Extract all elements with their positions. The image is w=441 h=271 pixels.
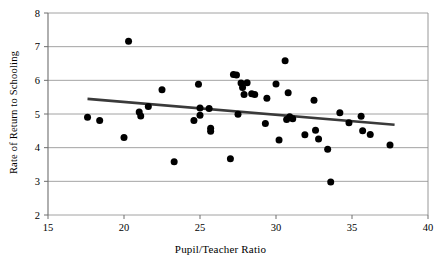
data-point (358, 113, 365, 120)
data-point (359, 127, 366, 134)
data-point (263, 95, 270, 102)
data-point (137, 113, 144, 120)
data-point (367, 131, 374, 138)
data-point (276, 136, 283, 143)
data-point (244, 79, 251, 86)
x-axis-title: Pupil/Teacher Ratio (0, 243, 441, 255)
y-tick-label: 6 (35, 75, 40, 86)
data-point (190, 117, 197, 124)
data-point (96, 117, 103, 124)
x-tick-label: 15 (43, 222, 54, 233)
y-tick-label: 2 (35, 210, 40, 221)
data-point (195, 81, 202, 88)
data-points (84, 38, 393, 186)
y-axis-ticks: 2345678 (35, 8, 48, 221)
x-tick-label: 35 (347, 222, 358, 233)
data-point (262, 120, 269, 127)
data-point (336, 109, 343, 116)
data-point (285, 89, 292, 96)
data-point (207, 128, 214, 135)
data-point (282, 57, 289, 64)
data-point (227, 155, 234, 162)
y-tick-label: 5 (35, 109, 40, 120)
data-point (327, 179, 334, 186)
y-tick-label: 8 (35, 8, 40, 19)
x-tick-label: 40 (423, 222, 434, 233)
data-point (387, 141, 394, 148)
x-tick-label: 30 (271, 222, 282, 233)
data-point (121, 134, 128, 141)
data-point (289, 115, 296, 122)
data-point (206, 105, 213, 112)
plot-area: 152025303540 2345678 (0, 0, 441, 271)
y-tick-label: 3 (35, 176, 40, 187)
data-point (159, 86, 166, 93)
x-axis-ticks: 152025303540 (43, 215, 434, 233)
data-point (84, 114, 91, 121)
data-point (197, 104, 204, 111)
data-point (125, 38, 132, 45)
data-point (273, 81, 280, 88)
y-axis-title: Rate of Return to Schooling (8, 33, 19, 193)
data-point (345, 119, 352, 126)
x-tick-label: 25 (195, 222, 206, 233)
data-point (251, 91, 258, 98)
x-tick-label: 20 (119, 222, 130, 233)
data-point (171, 158, 178, 165)
data-point (311, 97, 318, 104)
scatter-chart: 152025303540 2345678 Pupil/Teacher Ratio… (0, 0, 441, 271)
y-tick-label: 4 (35, 142, 41, 153)
data-point (145, 103, 152, 110)
data-point (315, 135, 322, 142)
data-point (241, 91, 248, 98)
data-point (301, 131, 308, 138)
data-point (324, 146, 331, 153)
data-point (312, 127, 319, 134)
data-point (235, 111, 242, 118)
y-tick-label: 7 (35, 41, 40, 52)
data-point (233, 71, 240, 78)
data-point (197, 112, 204, 119)
